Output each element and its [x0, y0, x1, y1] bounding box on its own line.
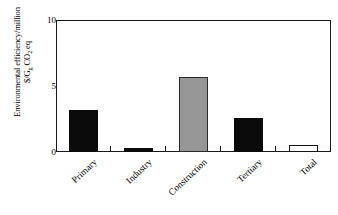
y-axis-title-line-2: $/Gg CO2 eq: [22, 41, 32, 83]
y-axis-title-line-1: Environmental efficiency/million: [12, 7, 22, 117]
bar-primary: [69, 110, 98, 152]
x-label-primary: Primary: [19, 157, 99, 215]
x-tick-mark-3: [220, 146, 221, 152]
bar-chart-figure: Environmental efficiency/million $/Gg CO…: [0, 0, 338, 215]
bar-tertiary: [234, 118, 263, 152]
bar-total: [289, 145, 318, 152]
y-tick-label-5: 5: [30, 81, 56, 91]
x-tick-mark-2: [165, 146, 166, 152]
x-tick-mark-4: [275, 146, 276, 152]
y-tick-label-0: 0: [30, 147, 56, 157]
bar-construction: [179, 77, 208, 152]
x-tick-mark-1: [110, 146, 111, 152]
y-axis-title-sub-2: 2: [26, 51, 33, 54]
y-axis-title-co: CO: [22, 54, 32, 68]
bar-industry: [124, 148, 153, 152]
y-axis-title-eq: eq: [22, 41, 32, 51]
y-tick-label-10: 10: [30, 15, 56, 25]
